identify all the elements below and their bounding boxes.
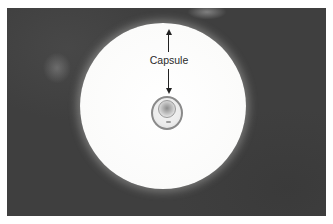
capsule-label: Capsule [148, 54, 190, 67]
arrow-down-icon [166, 88, 172, 94]
arrow-up-line [168, 32, 169, 52]
cell-spot [166, 121, 171, 123]
cell-body [158, 100, 176, 118]
